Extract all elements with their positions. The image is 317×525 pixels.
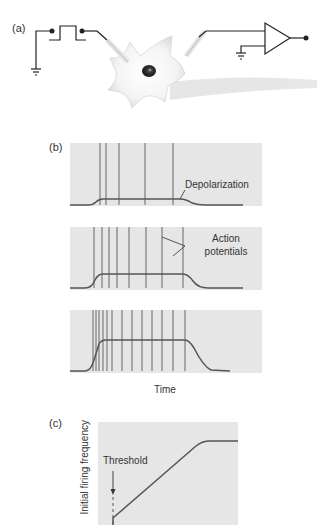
- neuron: [108, 36, 317, 108]
- stimulator-circuit: [36, 26, 107, 69]
- trace-2: Action potentials: [70, 227, 262, 290]
- action-potentials-annotation-line2: potentials: [205, 246, 248, 257]
- nucleus: [142, 65, 156, 77]
- panel-c-label: (c): [49, 417, 62, 429]
- amplifier-circuit: [199, 23, 306, 54]
- panel-a-label: (a): [12, 22, 25, 34]
- panel-a: (a): [12, 22, 317, 108]
- time-axis-label: Time: [154, 384, 176, 395]
- trace-1: Depolarization: [70, 143, 262, 206]
- action-potentials-annotation-line1: Action: [212, 233, 240, 244]
- y-axis-label: Initial firing frequency: [79, 420, 90, 515]
- panel-c-plot-area: [98, 422, 238, 525]
- panel-b-label: (b): [49, 141, 62, 153]
- terminal-dot: [80, 29, 85, 34]
- ground-icon: [31, 69, 41, 75]
- panel-c: (c) Initial firing frequency Threshold: [49, 417, 238, 525]
- threshold-annotation: Threshold: [103, 455, 147, 466]
- ground-icon: [236, 53, 246, 59]
- output-terminal: [304, 36, 309, 41]
- depolarization-annotation: Depolarization: [185, 179, 249, 190]
- figure: (a): [0, 0, 317, 525]
- trace-3: [70, 310, 262, 373]
- panel-b: (b) Depolarization: [49, 141, 262, 395]
- terminal-dot: [50, 29, 55, 34]
